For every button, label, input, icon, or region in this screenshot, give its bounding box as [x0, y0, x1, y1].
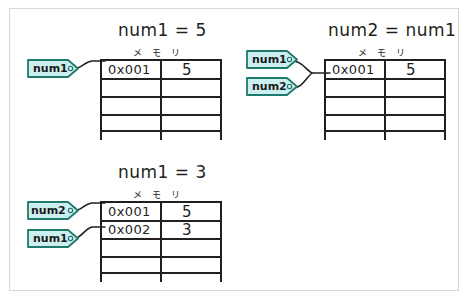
tag-label: num1: [33, 62, 68, 75]
tag-num2[interactable]: num2: [245, 76, 299, 101]
tag-num1[interactable]: num1: [26, 58, 80, 83]
tag-label: num2: [252, 80, 287, 93]
tag-num1[interactable]: num1: [245, 49, 299, 74]
memory-cell-address: 0x001: [332, 62, 375, 77]
memory-cell-value: 3: [182, 221, 192, 239]
panel-title: num1 = 5: [118, 20, 207, 40]
memory-cell-address: 0x001: [108, 62, 151, 77]
memory-cell-value: 5: [182, 203, 192, 221]
tag-label: num2: [31, 204, 66, 217]
memory-cell-address: 0x002: [108, 222, 151, 237]
diagram-canvas: num1 = 5 メ モ リ num1 0x001: [0, 0, 469, 301]
memory-cell-value: 5: [406, 61, 416, 79]
panel-title: num1 = 3: [118, 162, 207, 182]
tag-label: num1: [252, 53, 287, 66]
tag-label: num1: [33, 232, 68, 245]
memory-cell-address: 0x001: [108, 204, 151, 219]
tag-num1[interactable]: num1: [26, 228, 80, 253]
tag-num2[interactable]: num2: [26, 200, 80, 225]
memory-cell-value: 5: [182, 61, 192, 79]
panel-title: num2 = num1: [328, 20, 456, 40]
